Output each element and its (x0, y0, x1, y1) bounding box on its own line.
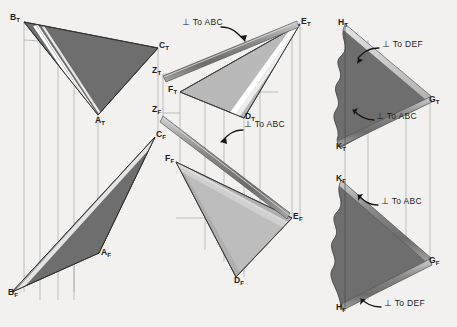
label-z-front: ZF (152, 105, 161, 114)
label-c-front: CF (156, 130, 166, 139)
note-perp-to-def-top: ⊥ To DEF (382, 40, 423, 49)
label-k-top: KT (336, 142, 346, 151)
label-f-front: FF (165, 154, 174, 163)
label-g-top: GT (429, 95, 440, 104)
label-f-top: FT (168, 85, 177, 94)
label-h-front: HF (336, 303, 346, 312)
note-perp-to-abc-right-top: ⊥ To ABC (376, 112, 417, 121)
note-perp-to-def-front: ⊥ To DEF (384, 299, 425, 308)
label-b-top: BT (10, 13, 20, 22)
label-e-top: ET (301, 17, 311, 26)
geometry-illustration (0, 0, 457, 327)
label-a-top: AT (95, 116, 105, 125)
label-a-front: AF (101, 248, 111, 257)
note-perp-to-abc-front: ⊥ To ABC (244, 120, 285, 129)
drawing-canvas: BT CT AT CF AF BF ZT FT ET DT ZF FF EF D… (0, 0, 457, 327)
label-g-front: GF (429, 256, 440, 265)
label-d-front: DF (234, 276, 244, 285)
note-perp-to-abc-top: ⊥ To ABC (182, 18, 223, 27)
label-k-front: KF (336, 174, 346, 183)
label-e-front: EF (293, 212, 303, 221)
label-c-top: CT (159, 41, 169, 50)
label-b-front: BF (8, 288, 18, 297)
note-perp-to-abc-right-front: ⊥ To ABC (381, 197, 422, 206)
label-h-top: HT (338, 18, 348, 27)
label-z-top: ZT (152, 66, 161, 75)
